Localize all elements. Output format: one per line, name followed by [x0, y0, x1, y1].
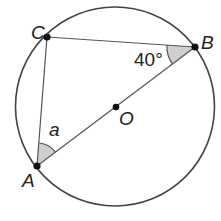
point-b [191, 43, 198, 50]
point-a [33, 162, 40, 169]
label-o: O [119, 108, 134, 129]
angle-a-label: a [49, 119, 60, 140]
label-c: C [31, 22, 45, 43]
angle-b-label: 40° [134, 49, 163, 70]
segment-cb [47, 37, 195, 47]
label-a: A [21, 170, 35, 191]
label-b: B [201, 32, 214, 53]
geometry-diagram: C B A O 40° a [0, 0, 221, 221]
